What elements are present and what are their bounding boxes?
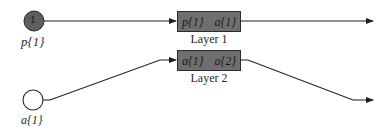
input-label-p1: p{1} xyxy=(21,34,44,50)
layer1-output-port: a{1} xyxy=(214,15,236,30)
edge-a1-to-layer2 xyxy=(43,60,176,100)
layer2-output-port: a{2} xyxy=(214,54,236,69)
input-label-a1: a{1} xyxy=(21,113,43,128)
layer2-input-port: a{1} xyxy=(182,54,204,69)
layer1-block: p{1} a{1} xyxy=(177,11,241,32)
edge-layer2-output xyxy=(240,60,373,100)
layer1-input-port: p{1} xyxy=(182,15,204,30)
input-node-a1 xyxy=(23,90,43,110)
layer2-block: a{1} a{2} xyxy=(177,50,241,71)
layer2-caption: Layer 2 xyxy=(177,71,241,86)
layer1-caption: Layer 1 xyxy=(177,32,241,47)
input-node-p1-text: 1 xyxy=(30,13,36,25)
